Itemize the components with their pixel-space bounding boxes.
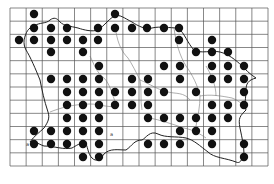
- record-dot: [208, 101, 216, 109]
- record-dot: [111, 88, 119, 96]
- coastline: [24, 15, 256, 162]
- distribution-map: a a: [0, 0, 274, 184]
- record-dot: [144, 75, 152, 83]
- record-dot: [224, 101, 232, 109]
- record-dot: [94, 24, 102, 32]
- record-dot: [192, 88, 200, 96]
- record-dot: [175, 36, 183, 44]
- record-dot: [63, 101, 71, 109]
- record-dot: [95, 62, 103, 70]
- record-dot: [208, 75, 216, 83]
- record-dot: [224, 48, 232, 56]
- record-dot: [95, 101, 103, 109]
- record-dot: [175, 24, 183, 32]
- record-dot: [47, 140, 55, 148]
- record-dot: [47, 36, 55, 44]
- record-dot: [47, 75, 55, 83]
- record-dot: [192, 48, 200, 56]
- record-dot: [160, 88, 168, 96]
- record-dot: [208, 127, 216, 135]
- record-dot: [240, 88, 248, 96]
- record-dot: [176, 75, 184, 83]
- record-dot: [95, 88, 103, 96]
- record-dot: [95, 127, 103, 135]
- record-dot: [63, 114, 71, 122]
- record-dot: [30, 10, 38, 18]
- record-dot: [144, 114, 152, 122]
- record-dot: [240, 140, 248, 148]
- record-dot: [240, 75, 248, 83]
- record-dot: [192, 127, 200, 135]
- record-dots: [15, 10, 248, 161]
- record-dot: [144, 101, 152, 109]
- parish-boundary: [200, 95, 246, 108]
- record-dot: [95, 75, 103, 83]
- record-dot: [63, 88, 71, 96]
- record-dot: [176, 127, 184, 135]
- record-dot: [63, 140, 71, 148]
- record-dot: [30, 24, 38, 32]
- record-dot: [95, 140, 103, 148]
- record-dot: [95, 153, 103, 161]
- record-dot: [224, 114, 232, 122]
- map-label-a: a: [110, 131, 113, 137]
- record-dot: [79, 36, 87, 44]
- record-dot: [160, 140, 168, 148]
- map-label-a: a: [26, 141, 29, 147]
- record-dot: [160, 62, 168, 70]
- record-dot: [144, 140, 152, 148]
- record-dot: [63, 36, 71, 44]
- record-dot: [111, 24, 119, 32]
- record-dot: [128, 75, 136, 83]
- record-dot: [79, 140, 87, 148]
- record-dot: [160, 114, 168, 122]
- record-dot: [208, 140, 216, 148]
- record-dot: [47, 24, 55, 32]
- record-dot: [144, 88, 152, 96]
- record-dot: [128, 24, 136, 32]
- record-dot: [208, 48, 216, 56]
- record-dot: [63, 127, 71, 135]
- record-dot: [79, 101, 87, 109]
- record-dot: [79, 114, 87, 122]
- parish-boundary: [116, 32, 142, 110]
- record-dot: [128, 101, 136, 109]
- record-dot: [47, 48, 55, 56]
- record-dot: [79, 48, 87, 56]
- record-dot: [30, 140, 38, 148]
- record-dot: [15, 36, 23, 44]
- record-dot: [160, 24, 168, 32]
- record-dot: [94, 36, 102, 44]
- record-dot: [111, 10, 119, 18]
- record-dot: [79, 88, 87, 96]
- record-dot: [111, 101, 119, 109]
- record-dot: [208, 36, 216, 44]
- record-dot: [79, 75, 87, 83]
- record-dot: [128, 88, 136, 96]
- record-dot: [176, 114, 184, 122]
- record-dot: [240, 101, 248, 109]
- record-dot: [208, 62, 216, 70]
- coastline-path: [24, 15, 256, 162]
- record-dot: [79, 153, 87, 161]
- record-dot: [176, 62, 184, 70]
- record-dot: [224, 75, 232, 83]
- record-dot: [143, 24, 151, 32]
- record-dot: [240, 62, 248, 70]
- record-dot: [95, 114, 103, 122]
- record-dot: [224, 62, 232, 70]
- record-dot: [176, 140, 184, 148]
- record-dot: [240, 153, 248, 161]
- record-dot: [192, 114, 200, 122]
- record-dot: [63, 24, 71, 32]
- record-dot: [63, 75, 71, 83]
- record-dot: [47, 127, 55, 135]
- record-dot: [79, 127, 87, 135]
- record-dot: [30, 127, 38, 135]
- record-dot: [208, 114, 216, 122]
- record-dot: [30, 36, 38, 44]
